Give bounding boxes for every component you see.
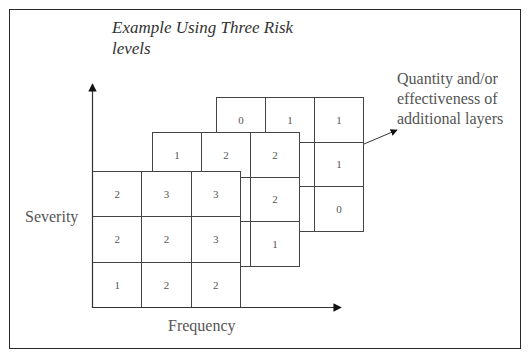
frequency-axis-label: Frequency [168, 316, 236, 336]
matrix-cell: 0 [315, 187, 364, 232]
matrix-cell: 1 [315, 143, 364, 188]
matrix-cell: 2 [251, 133, 300, 178]
severity-axis-label: Severity [25, 207, 78, 227]
layers-annotation: Quantity and/or effectiveness of additio… [397, 69, 522, 129]
risk-matrix-layer-1: 2 3 3 2 2 3 1 2 2 [92, 171, 241, 308]
matrix-cell: 2 [192, 263, 241, 308]
matrix-cell: 3 [192, 217, 241, 262]
matrix-cell: 1 [93, 263, 142, 308]
matrix-cell: 2 [251, 178, 300, 223]
matrix-cell: 3 [192, 172, 241, 217]
diagram-title: Example Using Three Risk levels [112, 17, 312, 59]
matrix-cell: 2 [93, 172, 142, 217]
matrix-cell: 2 [93, 217, 142, 262]
matrix-cell: 3 [142, 172, 191, 217]
matrix-cell: 1 [251, 222, 300, 267]
matrix-cell: 2 [142, 217, 191, 262]
matrix-cell: 1 [315, 98, 364, 143]
matrix-cell: 2 [142, 263, 191, 308]
